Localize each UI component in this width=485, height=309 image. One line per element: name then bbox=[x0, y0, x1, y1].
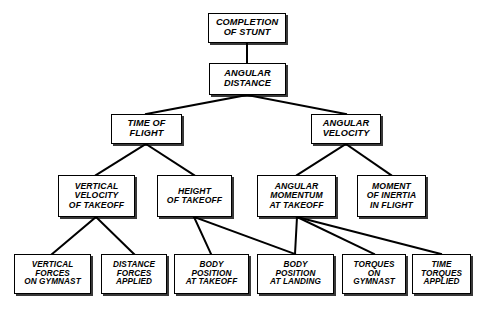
node-label-time-torques-applied: TIME TORQUES APPLIED bbox=[419, 261, 464, 288]
node-label-angular-velocity: ANGULAR VELOCITY bbox=[321, 119, 372, 139]
node-label-time-of-flight: TIME OF FLIGHT bbox=[126, 119, 168, 139]
edge-angular-velocity-to-moment-of-inertia-in-flight bbox=[346, 144, 391, 175]
node-label-height-of-takeoff: HEIGHT OF TAKEOFF bbox=[165, 187, 224, 206]
edge-time-of-flight-to-height-of-takeoff bbox=[146, 144, 194, 175]
edge-time-of-flight-to-vertical-velocity-of-takeoff bbox=[96, 144, 146, 175]
edge-vertical-velocity-of-takeoff-to-distance-forces-applied bbox=[96, 217, 134, 254]
edge-angular-distance-to-angular-velocity bbox=[247, 95, 346, 114]
node-label-vertical-forces-on-gymnast: VERTICAL FORCES ON GYMNAST bbox=[22, 261, 83, 288]
node-torques-on-gymnast[interactable]: TORQUES ON GYMNAST bbox=[342, 254, 406, 294]
deterministic-model-diagram: COMPLETION OF STUNTANGULAR DISTANCETIME … bbox=[0, 0, 485, 309]
node-time-torques-applied[interactable]: TIME TORQUES APPLIED bbox=[412, 254, 471, 294]
edge-angular-distance-to-time-of-flight bbox=[146, 95, 247, 114]
edge-vertical-velocity-of-takeoff-to-vertical-forces-on-gymnast bbox=[52, 217, 96, 254]
node-label-vertical-velocity-of-takeoff: VERTICAL VELOCITY OF TAKEOFF bbox=[67, 182, 126, 210]
node-vertical-velocity-of-takeoff[interactable]: VERTICAL VELOCITY OF TAKEOFF bbox=[58, 175, 135, 217]
node-completion-of-stunt[interactable]: COMPLETION OF STUNT bbox=[208, 13, 286, 43]
node-label-body-position-at-landing: BODY POSITION AT LANDING bbox=[268, 261, 323, 288]
node-body-position-at-landing[interactable]: BODY POSITION AT LANDING bbox=[257, 254, 334, 294]
node-body-position-at-takeoff[interactable]: BODY POSITION AT TAKEOFF bbox=[174, 254, 249, 294]
node-vertical-forces-on-gymnast[interactable]: VERTICAL FORCES ON GYMNAST bbox=[14, 254, 91, 294]
node-time-of-flight[interactable]: TIME OF FLIGHT bbox=[111, 114, 182, 144]
node-label-moment-of-inertia-in-flight: MOMENT OF INERTIA IN FLIGHT bbox=[365, 182, 419, 210]
edge-angular-momentum-at-takeoff-to-body-position-at-landing bbox=[295, 217, 297, 254]
node-label-torques-on-gymnast: TORQUES ON GYMNAST bbox=[351, 261, 397, 288]
node-angular-velocity[interactable]: ANGULAR VELOCITY bbox=[311, 114, 381, 144]
node-label-completion-of-stunt: COMPLETION OF STUNT bbox=[214, 18, 280, 38]
node-moment-of-inertia-in-flight[interactable]: MOMENT OF INERTIA IN FLIGHT bbox=[357, 175, 426, 217]
node-distance-forces-applied[interactable]: DISTANCE FORCES APPLIED bbox=[101, 254, 167, 294]
node-label-angular-distance: ANGULAR DISTANCE bbox=[222, 69, 273, 89]
edge-angular-momentum-at-takeoff-to-time-torques-applied bbox=[297, 217, 441, 254]
node-label-distance-forces-applied: DISTANCE FORCES APPLIED bbox=[111, 261, 157, 288]
edge-height-of-takeoff-to-body-position-at-landing bbox=[194, 217, 295, 254]
edge-height-of-takeoff-to-body-position-at-takeoff bbox=[194, 217, 211, 254]
node-height-of-takeoff[interactable]: HEIGHT OF TAKEOFF bbox=[157, 175, 232, 217]
node-label-body-position-at-takeoff: BODY POSITION AT TAKEOFF bbox=[184, 261, 240, 288]
node-angular-momentum-at-takeoff[interactable]: ANGULAR MOMENTUM AT TAKEOFF bbox=[257, 175, 336, 217]
edge-angular-velocity-to-angular-momentum-at-takeoff bbox=[297, 144, 346, 175]
edge-angular-momentum-at-takeoff-to-torques-on-gymnast bbox=[297, 217, 374, 254]
node-angular-distance[interactable]: ANGULAR DISTANCE bbox=[209, 63, 286, 95]
node-label-angular-momentum-at-takeoff: ANGULAR MOMENTUM AT TAKEOFF bbox=[267, 182, 325, 210]
